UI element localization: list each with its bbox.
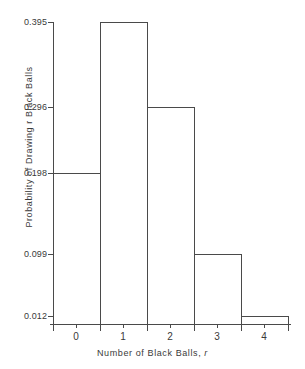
x-axis-title-symbol: r xyxy=(204,348,208,358)
bar-r2 xyxy=(147,107,195,325)
x-tick-label-4: 4 xyxy=(254,331,274,342)
x-axis-title: Number of Black Balls, r xyxy=(0,348,305,358)
bar-r4 xyxy=(241,316,289,325)
x-boundary-tick-45 xyxy=(288,324,289,331)
y-axis-title-text-before: Probability of Drawing xyxy=(24,127,34,228)
x-boundary-tick--05 xyxy=(53,324,54,331)
bar-r3 xyxy=(194,254,242,325)
x-tick-mark-4 xyxy=(264,324,265,328)
y-tick-label-0395: 0.395 xyxy=(24,17,47,27)
x-tick-label-3: 3 xyxy=(207,331,227,342)
y-axis-title-text-after: Black Balls xyxy=(24,66,34,117)
x-tick-label-0: 0 xyxy=(66,331,86,342)
y-tick-label-0012: 0.012 xyxy=(24,311,47,321)
x-boundary-tick-15 xyxy=(147,324,148,331)
x-tick-mark-0 xyxy=(76,324,77,328)
bar-r0 xyxy=(53,173,101,325)
y-tick-mark-0395 xyxy=(48,22,54,23)
bar-r1 xyxy=(100,22,148,325)
y-axis-title: Probability of Drawing r Black Balls xyxy=(24,42,34,252)
x-boundary-tick-05 xyxy=(100,324,101,331)
x-axis-title-text: Number of Black Balls, xyxy=(97,348,201,358)
y-tick-mark-0296 xyxy=(48,107,54,108)
x-tick-label-1: 1 xyxy=(113,331,133,342)
x-tick-mark-3 xyxy=(217,324,218,328)
x-tick-mark-2 xyxy=(170,324,171,328)
x-boundary-tick-35 xyxy=(241,324,242,331)
histogram-figure: 0.395 0.296 0.198 0.099 0.012 0 1 2 3 4 … xyxy=(0,0,305,369)
x-boundary-tick-25 xyxy=(194,324,195,331)
x-tick-label-2: 2 xyxy=(160,331,180,342)
y-axis-title-symbol: r xyxy=(24,120,34,124)
x-tick-mark-1 xyxy=(123,324,124,328)
